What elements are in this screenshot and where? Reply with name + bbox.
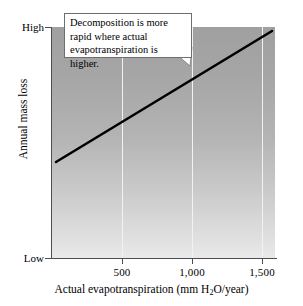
x-axis-line [51, 258, 277, 259]
y-tick-low [45, 258, 51, 259]
x-tick-label-1500: 1,500 [239, 266, 285, 278]
callout-box: Decomposition is morerapid where actuale… [64, 13, 192, 58]
callout-text: Decomposition is morerapid where actuale… [70, 16, 187, 70]
gridline-1000 [192, 27, 193, 258]
x-tick-1000 [192, 259, 193, 264]
chart-figure: 500 1,000 1,500 High Low Actual evapotra… [0, 0, 303, 306]
x-axis-title-prefix: Actual evapotranspiration (mm H [54, 283, 209, 295]
callout-line-3: evapotranspiration is higher. [70, 44, 158, 69]
callout-line-2: rapid where actual [70, 31, 148, 42]
x-axis-title-suffix: O/year) [213, 283, 248, 295]
y-tick-high [45, 27, 51, 28]
y-tick-label-high: High [22, 21, 44, 33]
x-tick-label-1000: 1,000 [169, 266, 215, 278]
x-tick-label-500: 500 [99, 266, 145, 278]
x-tick-500 [122, 259, 123, 264]
x-axis-title: Actual evapotranspiration (mm H2O/year) [0, 283, 303, 295]
callout-line-1: Decomposition is more [70, 17, 168, 28]
y-axis-title: Annual mass loss [17, 39, 29, 199]
y-tick-label-low: Low [24, 252, 44, 264]
x-axis-title-subscript: 2 [209, 288, 213, 297]
x-tick-1500 [262, 259, 263, 264]
gridline-1500 [262, 27, 263, 258]
y-axis-line [51, 27, 52, 259]
